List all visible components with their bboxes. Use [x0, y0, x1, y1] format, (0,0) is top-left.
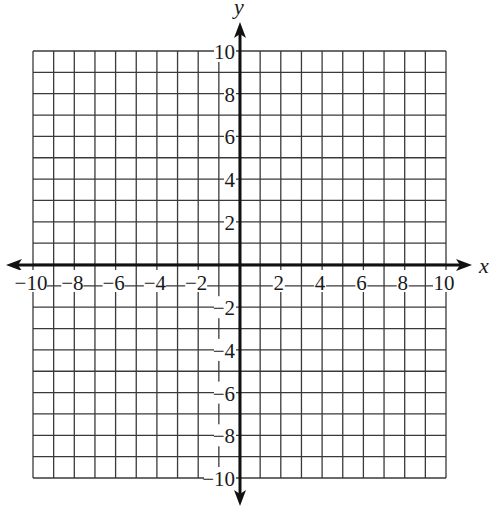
x-tick-label: 4	[315, 271, 326, 295]
y-tick-label: 8	[225, 83, 236, 107]
y-tick-label: 4	[225, 168, 236, 192]
coordinate-plane: −10−8−6−4−2246810 108642−2−4−6−8−10 x y	[0, 0, 498, 511]
x-axis-label: x	[478, 253, 489, 278]
y-tick-label: −2	[213, 296, 235, 320]
x-tick-label: 6	[356, 271, 367, 295]
y-tick-label: 2	[225, 211, 236, 235]
y-tick-label: 6	[225, 125, 236, 149]
x-tick-label: 2	[274, 271, 285, 295]
y-tick-label: −10	[202, 467, 235, 491]
y-tick-label: 10	[214, 40, 235, 64]
x-tick-label: −10	[15, 271, 48, 295]
axes	[6, 22, 472, 506]
y-tick-label: −8	[213, 424, 235, 448]
y-tick-label: −6	[213, 382, 235, 406]
x-tick-label: 8	[397, 271, 408, 295]
y-tick-label: −4	[213, 339, 236, 363]
x-axis-tick-labels: −10−8−6−4−2246810	[15, 270, 455, 295]
y-axis-label: y	[232, 0, 244, 19]
x-tick-label: −4	[144, 271, 167, 295]
x-tick-label: −8	[61, 271, 83, 295]
x-tick-label: −6	[102, 271, 124, 295]
x-tick-label: 10	[434, 271, 455, 295]
x-tick-label: −2	[185, 271, 207, 295]
